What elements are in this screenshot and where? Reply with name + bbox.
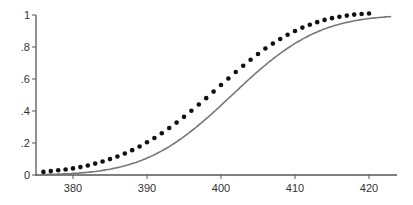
data-point bbox=[182, 115, 187, 120]
data-point bbox=[137, 144, 142, 149]
data-point bbox=[56, 168, 61, 173]
data-point bbox=[145, 140, 150, 145]
data-point bbox=[256, 52, 261, 57]
data-point bbox=[337, 14, 342, 19]
data-point bbox=[108, 157, 113, 162]
data-point bbox=[263, 46, 268, 51]
data-point bbox=[330, 16, 335, 21]
data-point bbox=[308, 22, 313, 27]
data-point bbox=[130, 148, 135, 153]
data-point bbox=[285, 32, 290, 37]
x-tick-label: 420 bbox=[360, 182, 378, 194]
data-point bbox=[189, 108, 194, 113]
y-tick-label: .8 bbox=[21, 41, 30, 53]
y-tick-label: 0 bbox=[24, 169, 30, 181]
data-point bbox=[359, 12, 364, 17]
data-point bbox=[204, 96, 209, 101]
data-point bbox=[271, 41, 276, 46]
x-tick-label: 400 bbox=[212, 182, 230, 194]
data-point bbox=[41, 170, 46, 175]
y-tick-label: .6 bbox=[21, 73, 30, 85]
data-point bbox=[78, 165, 83, 170]
x-tick-label: 380 bbox=[64, 182, 82, 194]
normal-cdf-curve bbox=[43, 17, 391, 175]
data-point bbox=[93, 161, 98, 166]
data-point bbox=[197, 102, 202, 107]
data-point bbox=[367, 11, 372, 16]
data-point bbox=[167, 126, 172, 131]
data-point bbox=[248, 57, 253, 62]
data-point bbox=[115, 154, 120, 159]
data-point bbox=[226, 76, 231, 81]
data-point bbox=[345, 13, 350, 18]
data-point bbox=[241, 64, 246, 69]
cdf-chart: 0.2.4.6.81380390400410420 bbox=[0, 0, 413, 205]
data-point bbox=[100, 159, 105, 164]
data-point bbox=[352, 12, 357, 17]
data-point bbox=[219, 83, 224, 88]
axes: 0.2.4.6.81380390400410420 bbox=[21, 9, 397, 194]
data-point bbox=[174, 120, 179, 125]
data-point bbox=[322, 18, 327, 23]
data-point bbox=[86, 163, 91, 168]
x-tick-label: 390 bbox=[138, 182, 156, 194]
data-point bbox=[293, 29, 298, 34]
data-point bbox=[278, 37, 283, 42]
y-tick-label: .2 bbox=[21, 137, 30, 149]
y-tick-label: .4 bbox=[21, 105, 30, 117]
y-tick-label: 1 bbox=[24, 9, 30, 21]
data-point bbox=[152, 136, 157, 141]
data-point bbox=[49, 169, 54, 174]
data-point bbox=[63, 167, 68, 172]
x-tick-label: 410 bbox=[286, 182, 304, 194]
data-point bbox=[123, 151, 128, 156]
data-point bbox=[211, 89, 216, 94]
data-point bbox=[71, 166, 76, 171]
data-point bbox=[315, 20, 320, 25]
data-point bbox=[234, 70, 239, 75]
data-point bbox=[160, 131, 165, 136]
empirical-points bbox=[41, 11, 371, 174]
data-point bbox=[300, 25, 305, 30]
